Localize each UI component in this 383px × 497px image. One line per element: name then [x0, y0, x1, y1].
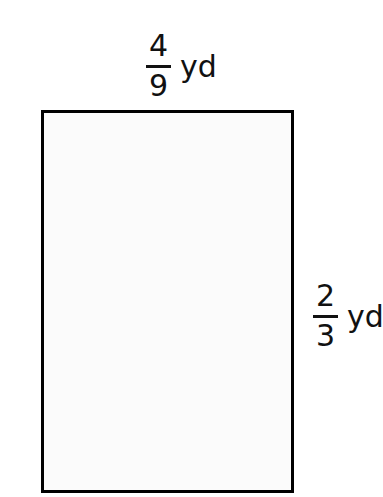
figure-canvas: 4 9 yd 2 3 yd [0, 0, 383, 497]
width-dimension-label: 4 9 yd [146, 31, 217, 101]
height-numerator: 2 [314, 281, 337, 312]
height-dimension-label: 2 3 yd [313, 281, 383, 351]
width-numerator: 4 [147, 31, 170, 62]
rectangle-shape [41, 110, 294, 493]
height-unit: yd [347, 302, 383, 332]
height-fraction: 2 3 [313, 281, 338, 351]
width-denominator: 9 [147, 71, 170, 102]
width-fraction: 4 9 [146, 31, 171, 101]
width-unit: yd [180, 52, 217, 82]
height-denominator: 3 [314, 321, 337, 352]
